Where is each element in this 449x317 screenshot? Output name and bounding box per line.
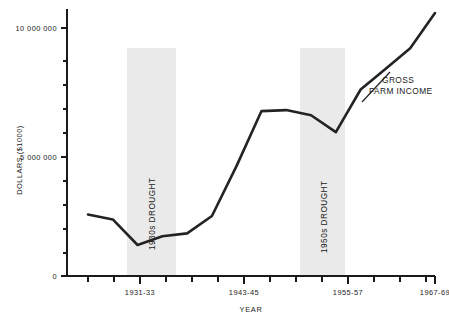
axis-frame (67, 9, 435, 276)
ytick-label-5m: 5 000 000 (20, 153, 57, 162)
line-chart-canvas: 0 5 000 000 10 000 000 DOLLARS ($1000) 1… (0, 0, 449, 317)
xtick-label-1967-69: 1967-69 (420, 288, 449, 297)
series-callout-line2: FARM INCOME (369, 86, 433, 96)
y-axis-title: DOLLARS ($1000) (15, 125, 24, 195)
x-axis-title: YEAR (240, 305, 263, 314)
xtick-label-1931-33: 1931-33 (125, 288, 155, 297)
band-label-1930s-drought: 1930s DROUGHT (148, 178, 157, 250)
xtick-label-1943-45: 1943-45 (229, 288, 259, 297)
chart-figure: 0 5 000 000 10 000 000 DOLLARS ($1000) 1… (0, 0, 449, 317)
band-label-1950s-drought: 1950s DROUGHT (320, 181, 329, 253)
ytick-label-10m: 10 000 000 (16, 24, 58, 33)
ytick-label-0: 0 (52, 272, 57, 281)
xtick-label-1955-57: 1955-57 (333, 288, 363, 297)
series-callout-line1: GROSS (382, 75, 414, 85)
